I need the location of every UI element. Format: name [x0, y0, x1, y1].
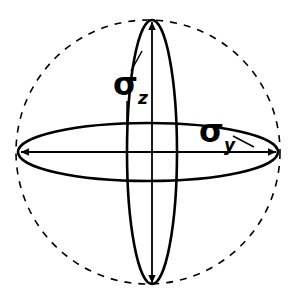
sigma-y-base: σ	[199, 112, 224, 150]
sigma-z-base: σ	[113, 65, 138, 103]
figure-root: σ z σ y	[0, 0, 296, 303]
sigma-z-subscript: z	[137, 88, 148, 108]
diagram-canvas: σ z σ y	[0, 0, 296, 303]
sigma-y-subscript: y	[224, 135, 236, 155]
